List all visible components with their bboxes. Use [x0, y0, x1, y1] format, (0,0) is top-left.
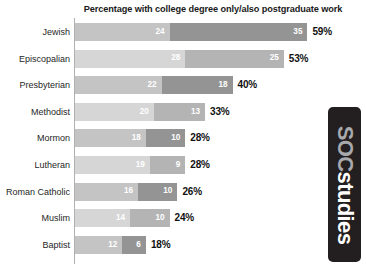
category-label: Methodist: [0, 107, 70, 117]
stacked-bar: 2013: [75, 103, 205, 121]
bar-row: Episcopalian282553%: [0, 48, 366, 74]
segment-value: 18: [132, 134, 146, 142]
total-percentage-label: 40%: [238, 79, 257, 90]
total-percentage-label: 28%: [190, 132, 209, 143]
bar-segment-degree-only: 20: [75, 103, 154, 121]
stacked-bar: 1810: [75, 129, 185, 147]
segment-value: 18: [218, 81, 232, 89]
total-percentage-label: 18%: [151, 239, 170, 250]
total-percentage-label: 59%: [312, 26, 331, 37]
bar-row: Jewish243559%: [0, 21, 366, 47]
total-percentage-label: 28%: [190, 159, 209, 170]
bar-segment-degree-only: 16: [75, 183, 138, 201]
bar-row: Roman Catholic161026%: [0, 181, 366, 207]
segment-value: 25: [270, 54, 284, 62]
category-label: Lutheran: [0, 160, 70, 170]
segment-value: 19: [136, 161, 150, 169]
segment-value: 10: [155, 214, 169, 222]
category-label: Muslim: [0, 213, 70, 223]
segment-value: 9: [176, 161, 186, 169]
stacked-bar: 1410: [75, 209, 170, 227]
stacked-bar: 1610: [75, 183, 177, 201]
bar-row: Baptist12618%: [0, 234, 366, 260]
total-percentage-label: 33%: [210, 106, 229, 117]
bar-segment-degree-only: 28: [75, 50, 185, 68]
segment-value: 28: [171, 54, 185, 62]
bar-segment-postgraduate: 9: [150, 156, 185, 174]
bar-segment-degree-only: 24: [75, 23, 170, 41]
stacked-bar: 2435: [75, 23, 307, 41]
total-percentage-label: 53%: [289, 53, 308, 64]
segment-value: 16: [124, 187, 138, 195]
socstudies-logo: SOCstudies: [328, 107, 361, 262]
logo-studies-text: studies: [333, 171, 358, 244]
bar-segment-postgraduate: 25: [185, 50, 284, 68]
category-label: Presbyterian: [0, 80, 70, 90]
bar-segment-degree-only: 22: [75, 76, 162, 94]
total-percentage-label: 26%: [182, 186, 201, 197]
segment-value: 22: [148, 81, 162, 89]
stacked-bar: 199: [75, 156, 185, 174]
bar-row: Methodist201333%: [0, 101, 366, 127]
category-label: Jewish: [0, 27, 70, 37]
category-label: Baptist: [0, 240, 70, 250]
bar-segment-postgraduate: 6: [122, 236, 146, 254]
segment-value: 6: [136, 241, 146, 249]
bar-segment-postgraduate: 10: [146, 129, 185, 147]
bar-segment-postgraduate: 18: [162, 76, 233, 94]
logo-text: SOCstudies: [334, 125, 356, 244]
segment-value: 14: [116, 214, 130, 222]
bar-row: Mormon181028%: [0, 127, 366, 153]
bar-row: Presbyterian221840%: [0, 74, 366, 100]
category-label: Episcopalian: [0, 54, 70, 64]
stacked-bar: 2218: [75, 76, 233, 94]
bar-segment-degree-only: 18: [75, 129, 146, 147]
bar-segment-postgraduate: 35: [170, 23, 308, 41]
bar-segment-degree-only: 14: [75, 209, 130, 227]
bar-segment-degree-only: 12: [75, 236, 122, 254]
bar-row: Lutheran19928%: [0, 154, 366, 180]
segment-value: 35: [293, 28, 307, 36]
bar-chart: Percentage with college degree only/also…: [0, 0, 366, 270]
bar-segment-postgraduate: 13: [154, 103, 205, 121]
bar-row: Muslim141024%: [0, 207, 366, 233]
stacked-bar: 2825: [75, 50, 284, 68]
bar-segment-postgraduate: 10: [138, 183, 177, 201]
segment-value: 12: [108, 241, 122, 249]
segment-value: 10: [171, 134, 185, 142]
chart-title: Percentage with college degree only/also…: [62, 3, 364, 15]
plot-area: Jewish243559%Episcopalian282553%Presbyte…: [0, 18, 366, 266]
segment-value: 24: [155, 28, 169, 36]
total-percentage-label: 24%: [175, 212, 194, 223]
logo-soc-text: SOC: [333, 125, 358, 171]
segment-value: 13: [191, 108, 205, 116]
category-label: Roman Catholic: [0, 187, 70, 197]
stacked-bar: 126: [75, 236, 146, 254]
segment-value: 20: [140, 108, 154, 116]
segment-value: 10: [163, 187, 177, 195]
bar-segment-degree-only: 19: [75, 156, 150, 174]
category-label: Mormon: [0, 133, 70, 143]
bar-segment-postgraduate: 10: [130, 209, 169, 227]
